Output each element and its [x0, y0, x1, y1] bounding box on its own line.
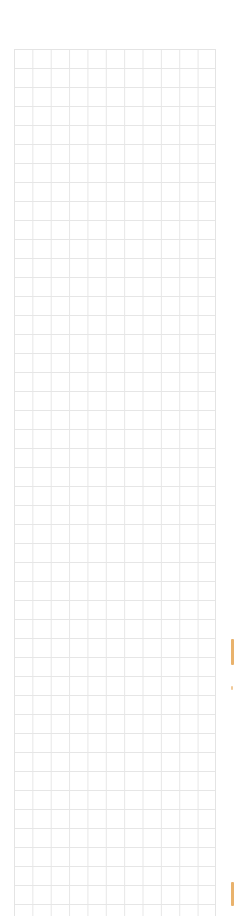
cell-grid[interactable]	[14, 49, 216, 916]
scroll-marker-bottom[interactable]	[231, 882, 234, 906]
scroll-marker-dot	[231, 686, 233, 690]
faded-header-text	[14, 2, 224, 36]
scroll-marker-top[interactable]	[231, 639, 234, 665]
spreadsheet-panel	[0, 0, 234, 916]
